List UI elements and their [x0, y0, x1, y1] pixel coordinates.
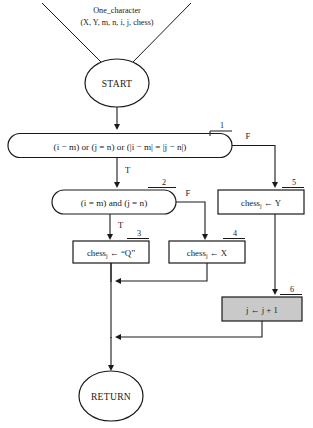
node-2-true-label: T [118, 220, 124, 230]
flowchart-page: One_character (X, Y, m, n, i, j, chess) … [0, 0, 313, 428]
node-5-text-base: chess [241, 198, 261, 208]
start-terminal-label: START [102, 78, 133, 89]
node-3-number: 3 [137, 229, 141, 238]
node-1-false-label: F [246, 131, 251, 141]
return-terminal-label: RETURN [91, 391, 131, 402]
node-3-text-rest: ← “Q” [108, 248, 135, 258]
header-line-2: (X, Y, m, n, i, j, chess) [80, 18, 153, 27]
node-1-true-label: T [125, 165, 131, 175]
node-4-label: chessj ← X [187, 248, 228, 259]
node-6-label: j ← j + 1 [245, 305, 278, 315]
flowchart-svg: One_character (X, Y, m, n, i, j, chess) … [0, 0, 313, 428]
node-1-label: (i − m) or (j = n) or (|i − m| = |j − n|… [54, 142, 187, 152]
node-3-label: chessj ← “Q” [87, 248, 135, 259]
node-3-text-base: chess [87, 248, 107, 258]
node-2-false-label: F [186, 188, 191, 198]
node-2-label: (i = m) and (j = n) [81, 198, 148, 208]
header-line-1: One_character [93, 6, 141, 15]
edge-n1-false [232, 146, 275, 187]
node-5-text-rest: ← Y [262, 198, 282, 208]
edge-n4-merge [117, 263, 207, 281]
node-4-text-rest: ← X [208, 248, 228, 258]
node-6-number: 6 [290, 285, 294, 294]
node-2-number: 2 [162, 178, 166, 187]
node-4-number: 4 [233, 229, 237, 238]
node-1-number: 1 [220, 121, 224, 130]
edge-n2-false [176, 202, 205, 238]
node-5-label: chessj ← Y [241, 198, 282, 209]
node-5-number: 5 [292, 178, 296, 187]
edge-n6-merge [117, 321, 262, 337]
node-4-text-base: chess [187, 248, 207, 258]
